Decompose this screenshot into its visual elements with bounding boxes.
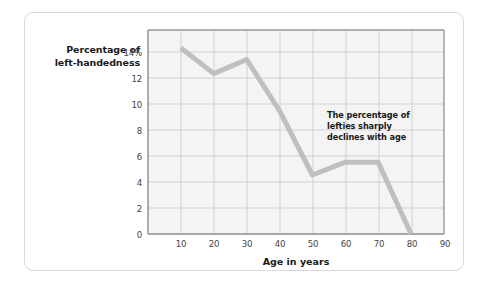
y-tick-label-2: 2 bbox=[106, 204, 142, 214]
chart-annotation-line-1: The percentage of bbox=[327, 110, 423, 121]
y-tick-label-14: 14% bbox=[106, 48, 142, 58]
x-tick-label-30: 30 bbox=[232, 239, 262, 249]
chart-annotation-line-2: lefties sharply bbox=[327, 121, 423, 132]
chart-annotation: The percentage of lefties sharply declin… bbox=[327, 110, 423, 144]
x-tick-label-60: 60 bbox=[331, 239, 361, 249]
y-tick-label-10: 10 bbox=[106, 100, 142, 110]
x-tick-label-80: 80 bbox=[397, 239, 427, 249]
x-tick-label-40: 40 bbox=[265, 239, 295, 249]
x-tick-label-50: 50 bbox=[298, 239, 328, 249]
screenshot-root: Percentage of left-handedness 14% 12 10 … bbox=[0, 0, 487, 283]
x-tick-label-20: 20 bbox=[199, 239, 229, 249]
x-axis-title: Age in years bbox=[148, 256, 444, 267]
x-tick-label-70: 70 bbox=[364, 239, 394, 249]
chart-annotation-line-3: declines with age bbox=[327, 132, 423, 143]
y-tick-label-12: 12 bbox=[106, 74, 142, 84]
y-tick-label-8: 8 bbox=[106, 126, 142, 136]
y-tick-label-6: 6 bbox=[106, 152, 142, 162]
y-axis-title-line-2: left-handedness bbox=[30, 57, 140, 70]
x-tick-label-10: 10 bbox=[166, 239, 196, 249]
y-tick-label-4: 4 bbox=[106, 178, 142, 188]
x-tick-label-90: 90 bbox=[430, 239, 460, 249]
y-tick-label-0: 0 bbox=[106, 230, 142, 240]
